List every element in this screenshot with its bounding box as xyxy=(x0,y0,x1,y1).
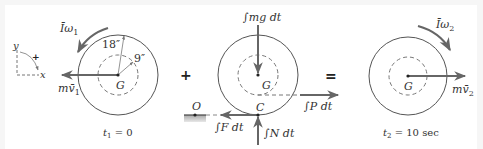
center-label: G xyxy=(116,79,125,92)
center-label: G xyxy=(404,80,413,93)
panel-final-momentum: G mv̄2 Īω2 t2 = 10 sec xyxy=(369,18,474,140)
positive-sense-label: + xyxy=(32,52,40,62)
pull-impulse-label: ∫P dt xyxy=(304,100,333,113)
panel-initial-momentum: y x + 18″ 9″ G mv̄1 Īω1 t1 = 0 xyxy=(12,22,158,140)
impulse-momentum-diagram: y x + 18″ 9″ G mv̄1 Īω1 t1 = 0 + ∫mg dt … xyxy=(0,0,483,149)
y-axis-label: y xyxy=(12,40,19,51)
angular-momentum-label: Īω2 xyxy=(435,18,454,33)
center-of-mass-dot xyxy=(406,74,409,77)
friction-impulse-label: ∫F dt xyxy=(215,121,244,134)
linear-momentum-label: mv̄1 xyxy=(58,82,80,97)
center-of-mass-dot xyxy=(256,73,259,76)
coordinate-axes-icon: y x + xyxy=(12,40,46,80)
origin-label: O xyxy=(192,100,201,113)
plus-operator: + xyxy=(180,67,192,83)
panel-external-impulses: ∫mg dt G ∫P dt O ∫F dt ∫N dt C xyxy=(184,11,338,145)
inner-radius-label: 9″ xyxy=(134,52,145,65)
normal-impulse-label: ∫N dt xyxy=(264,127,295,140)
weight-impulse-label: ∫mg dt xyxy=(243,11,282,24)
outer-radius-label: 18″ xyxy=(102,38,120,51)
origin-point-dot xyxy=(193,113,196,116)
x-axis-label: x xyxy=(40,69,46,80)
contact-label: C xyxy=(256,101,265,114)
center-label: G xyxy=(262,79,271,92)
center-of-mass-dot xyxy=(116,73,119,76)
final-time-label: t2 = 10 sec xyxy=(383,127,439,140)
initial-time-label: t1 = 0 xyxy=(103,127,133,140)
inner-radius-arrow-icon xyxy=(118,62,133,75)
linear-momentum-label: mv̄2 xyxy=(452,83,474,98)
equals-operator: = xyxy=(325,68,337,84)
angular-momentum-label: Īω1 xyxy=(59,22,78,37)
